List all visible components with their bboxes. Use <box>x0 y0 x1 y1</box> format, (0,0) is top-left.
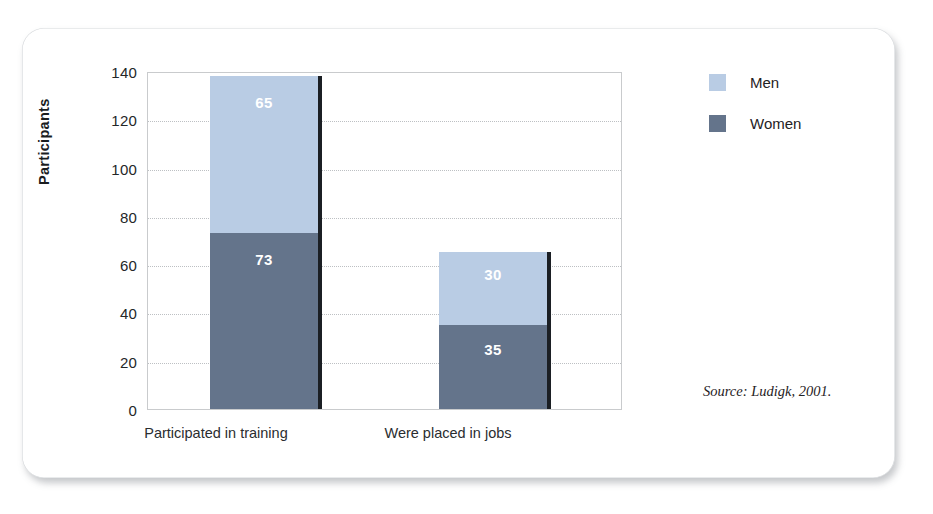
legend-label-men: Men <box>750 74 779 91</box>
x-tick-label-were-placed-in-jobs: Were placed in jobs <box>355 425 541 441</box>
source-note: Source: Ludigk, 2001. <box>703 383 831 400</box>
bar-segment-women[interactable]: 35 <box>439 325 547 410</box>
stacked-bar-chart: Participants 140 120 100 80 60 40 20 0 6… <box>0 0 933 514</box>
bar-edge-shadow <box>547 252 551 409</box>
legend-swatch-women-icon <box>709 115 726 132</box>
legend: Men Women <box>709 74 801 156</box>
y-tick-120: 120 <box>95 112 137 129</box>
x-tick-label-participated-in-training: Participated in training <box>123 425 309 441</box>
legend-item-women[interactable]: Women <box>709 115 801 132</box>
bar-segment-men[interactable]: 30 <box>439 252 547 324</box>
bar-value-label-women: 73 <box>210 251 318 268</box>
y-tick-100: 100 <box>95 160 137 177</box>
y-tick-0: 0 <box>95 402 137 419</box>
legend-label-women: Women <box>750 115 801 132</box>
bar-group-participated-in-training[interactable]: 65 73 <box>210 76 318 409</box>
bar-value-label-men: 65 <box>210 94 318 111</box>
bar-group-were-placed-in-jobs[interactable]: 30 35 <box>439 252 547 409</box>
y-tick-140: 140 <box>95 64 137 81</box>
bar-value-label-men: 30 <box>439 266 547 283</box>
y-axis-tick-labels: 140 120 100 80 60 40 20 0 <box>85 72 137 410</box>
legend-item-men[interactable]: Men <box>709 74 801 91</box>
y-tick-60: 60 <box>95 257 137 274</box>
legend-swatch-men-icon <box>709 74 726 91</box>
bar-value-label-women: 35 <box>439 341 547 358</box>
bar-edge-shadow <box>318 76 322 409</box>
y-tick-40: 40 <box>95 305 137 322</box>
y-tick-80: 80 <box>95 208 137 225</box>
y-tick-20: 20 <box>95 353 137 370</box>
bar-segment-men[interactable]: 65 <box>210 76 318 233</box>
bar-segment-women[interactable]: 73 <box>210 233 318 409</box>
y-axis-title: Participants <box>36 98 52 185</box>
plot-area: 65 73 30 35 <box>147 72 622 410</box>
